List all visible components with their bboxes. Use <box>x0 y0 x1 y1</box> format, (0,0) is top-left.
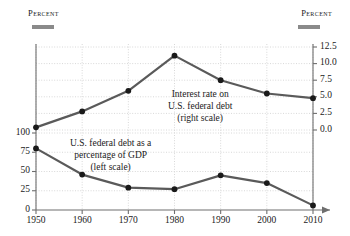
annotation-federal-debt: U.S. federal debt as a percentage of GDP… <box>70 137 151 173</box>
annotation-interest-line1: Interest rate on <box>168 88 232 100</box>
ytick-left-50: 50 <box>0 165 30 175</box>
annotation-debt-line3: (left scale) <box>70 161 151 173</box>
data-point-1-1990 <box>218 77 224 83</box>
xtick-1980: 1980 <box>158 215 192 225</box>
ytick-right-0.0: 0.0 <box>320 124 350 134</box>
data-point-1-1970 <box>125 88 131 94</box>
data-point-0-1990 <box>218 172 224 178</box>
annotation-debt-line2: percentage of GDP <box>70 149 151 161</box>
data-point-1-1980 <box>172 53 178 59</box>
xtick-1950: 1950 <box>19 215 53 225</box>
xtick-2010: 2010 <box>296 215 330 225</box>
data-point-0-2000 <box>264 180 270 186</box>
ytick-left-0: 0 <box>0 204 30 214</box>
ytick-right-7.5: 7.5 <box>320 74 350 84</box>
ytick-left-100: 100 <box>0 127 30 137</box>
xtick-1970: 1970 <box>111 215 145 225</box>
xtick-2000: 2000 <box>250 215 284 225</box>
annotation-debt-line1: U.S. federal debt as a <box>70 137 151 149</box>
annotation-interest-line3: (right scale) <box>168 112 232 124</box>
ytick-right-10.0: 10.0 <box>320 57 350 67</box>
data-point-0-1950 <box>33 146 39 152</box>
ytick-left-75: 75 <box>0 146 30 156</box>
annotation-interest-rate: Interest rate on U.S. federal debt (righ… <box>168 88 232 124</box>
ytick-right-5.0: 5.0 <box>320 90 350 100</box>
data-point-1-1960 <box>79 109 85 115</box>
data-point-1-2010 <box>310 95 316 101</box>
annotation-interest-line2: U.S. federal debt <box>168 100 232 112</box>
data-point-0-1970 <box>125 185 131 191</box>
xtick-1990: 1990 <box>204 215 238 225</box>
data-point-0-2010 <box>310 202 316 208</box>
data-point-0-1980 <box>172 186 178 192</box>
axis-lines <box>32 44 330 214</box>
chart-figure: Percent Percent 02550751000.02.55.07.510… <box>0 0 350 236</box>
ytick-right-12.5: 12.5 <box>320 41 350 51</box>
data-point-1-1950 <box>33 124 39 130</box>
ytick-right-2.5: 2.5 <box>320 107 350 117</box>
xtick-1960: 1960 <box>65 215 99 225</box>
ytick-left-25: 25 <box>0 184 30 194</box>
data-point-1-2000 <box>264 91 270 97</box>
